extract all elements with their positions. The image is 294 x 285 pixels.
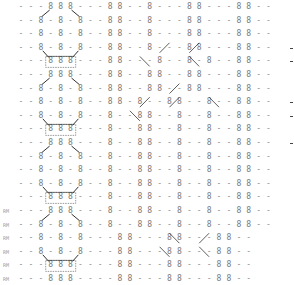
edge-mark	[290, 48, 293, 49]
edge-mark	[290, 116, 293, 117]
edge-mark	[290, 143, 293, 144]
edge-mark	[290, 102, 293, 103]
edge-mark	[290, 61, 293, 62]
